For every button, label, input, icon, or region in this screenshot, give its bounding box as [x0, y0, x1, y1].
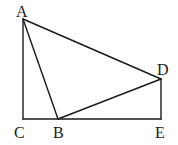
point-label-a: A [16, 3, 28, 20]
segment-AB [23, 19, 58, 119]
segment-AD [23, 19, 161, 79]
geometry-figure: A B C D E [0, 0, 178, 145]
segment-BD [58, 79, 161, 119]
point-label-b: B [53, 124, 64, 141]
point-label-e: E [155, 124, 165, 141]
point-label-d: D [157, 61, 169, 78]
point-label-c: C [14, 124, 25, 141]
